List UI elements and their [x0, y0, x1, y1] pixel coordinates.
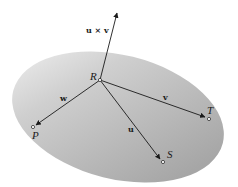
label-u: u [128, 124, 134, 134]
label-cross: u × v [86, 25, 109, 35]
point-T [207, 117, 210, 120]
plane [0, 31, 238, 187]
label-w: w [59, 93, 68, 103]
vector-diagram: R P S T u × v w u v [0, 0, 238, 187]
label-v: v [162, 92, 168, 102]
label-S: S [167, 148, 173, 160]
label-P: P [31, 129, 39, 141]
point-R [98, 78, 101, 81]
point-S [161, 160, 164, 163]
label-R: R [89, 70, 97, 82]
label-T: T [207, 104, 214, 116]
